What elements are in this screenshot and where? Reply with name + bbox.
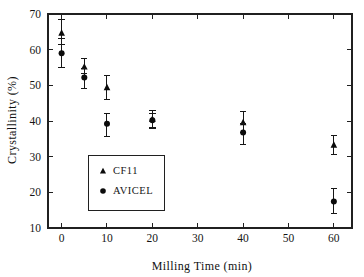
crystallinity-vs-milling-time-chart: 010203040506010203040506070 CF11AVICEL M… xyxy=(0,0,364,277)
data-point-circle xyxy=(81,74,87,80)
x-tick-label: 0 xyxy=(59,232,65,244)
x-axis-title: Milling Time (min) xyxy=(152,259,253,273)
x-tick-label: 20 xyxy=(147,232,159,244)
y-tick-label: 50 xyxy=(30,79,42,91)
y-tick-label: 30 xyxy=(30,151,42,163)
series-cf11 xyxy=(58,19,337,155)
data-point-circle xyxy=(149,117,155,123)
chart-legend: CF11AVICEL xyxy=(88,155,164,210)
legend-label: CF11 xyxy=(113,165,138,176)
data-point-circle xyxy=(240,129,246,135)
data-point-circle xyxy=(331,199,337,205)
y-tick-label: 70 xyxy=(30,8,42,20)
axis-tick-labels: 010203040506010203040506070 xyxy=(30,8,340,244)
data-point-triangle xyxy=(58,29,65,35)
legend-border xyxy=(88,155,164,210)
y-tick-label: 40 xyxy=(30,115,42,127)
y-axis-title: Crystallinity (%) xyxy=(5,76,19,164)
data-point-triangle xyxy=(331,141,338,147)
y-tick-label: 10 xyxy=(30,222,42,234)
data-point-circle xyxy=(104,121,110,127)
x-tick-label: 30 xyxy=(192,232,204,244)
data-point-circle xyxy=(59,50,65,56)
data-point-triangle xyxy=(104,84,111,90)
y-tick-label: 20 xyxy=(30,186,42,198)
y-tick-label: 60 xyxy=(30,44,42,56)
chart-canvas: 010203040506010203040506070 CF11AVICEL M… xyxy=(0,0,364,277)
x-tick-label: 10 xyxy=(101,232,113,244)
legend-marker-circle xyxy=(100,188,106,194)
x-tick-label: 40 xyxy=(237,232,249,244)
legend-label: AVICEL xyxy=(113,185,153,196)
x-tick-label: 60 xyxy=(328,232,340,244)
x-tick-label: 50 xyxy=(283,232,295,244)
